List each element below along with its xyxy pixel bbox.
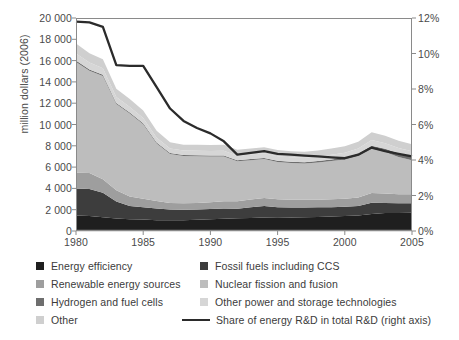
chart-figure: million dollars (2006) 02 0004 0006 0008… [0,0,459,340]
y-axis-tick-label: 16 000 [12,55,72,67]
x-axis-tick-label: 2005 [387,236,437,248]
x-axis-tick-label: 1995 [253,236,303,248]
legend-color-swatch [36,316,44,324]
x-axis-tick-label: 1990 [185,236,235,248]
secondary-y-axis-tick-label: 10% [418,48,458,60]
legend-item[interactable]: Renewable energy sources [36,278,181,290]
legend-label: Energy efficiency [51,260,132,272]
y-axis-tick-label: 6 000 [12,161,72,173]
x-axis-tick-label: 2000 [320,236,370,248]
legend-item[interactable]: Other [36,314,78,326]
legend-label: Fossil fuels including CCS [215,260,340,272]
legend-label: Hydrogen and fuel cells [51,296,163,308]
x-axis-tick-label: 1980 [51,236,101,248]
legend-label: Share of energy R&D in total R&D (right … [216,314,431,326]
y-axis-tick-label: 18 000 [12,33,72,45]
legend-color-swatch [36,298,44,306]
legend-label: Renewable energy sources [51,278,181,290]
y-axis-tick-label: 12 000 [12,97,72,109]
secondary-y-axis-tick-label: 8% [418,83,458,95]
x-axis-tick-label: 1985 [118,236,168,248]
legend-color-swatch [200,280,208,288]
secondary-y-axis-tick-label: 6% [418,119,458,131]
legend-line-swatch [182,319,210,321]
y-axis-tick-label: 2 000 [12,204,72,216]
legend-item[interactable]: Fossil fuels including CCS [200,260,340,272]
legend-color-swatch [200,298,208,306]
secondary-y-axis-tick-label: 12% [418,12,458,24]
legend-label: Other power and storage technologies [215,296,397,308]
legend-color-swatch [36,280,44,288]
chart-legend: Energy efficiencyRenewable energy source… [0,258,459,340]
area-band [76,62,412,203]
legend-item[interactable]: Nuclear fission and fusion [200,278,338,290]
legend-label: Nuclear fission and fusion [215,278,338,290]
legend-item[interactable]: Share of energy R&D in total R&D (right … [182,314,431,326]
y-axis-tick-label: 10 000 [12,119,72,131]
legend-color-swatch [200,262,208,270]
legend-color-swatch [36,262,44,270]
y-axis-tick-label: 8 000 [12,140,72,152]
legend-item[interactable]: Other power and storage technologies [200,296,397,308]
y-axis-tick-label: 14 000 [12,76,72,88]
legend-item[interactable]: Hydrogen and fuel cells [36,296,163,308]
legend-label: Other [51,314,78,326]
secondary-y-axis-tick-label: 2% [418,190,458,202]
y-axis-tick-label: 20 000 [12,12,72,24]
plot-area [76,18,412,231]
secondary-y-axis-tick-label: 4% [418,154,458,166]
y-axis-tick-label: 4 000 [12,182,72,194]
legend-item[interactable]: Energy efficiency [36,260,132,272]
stacked-area-plot [76,18,412,231]
